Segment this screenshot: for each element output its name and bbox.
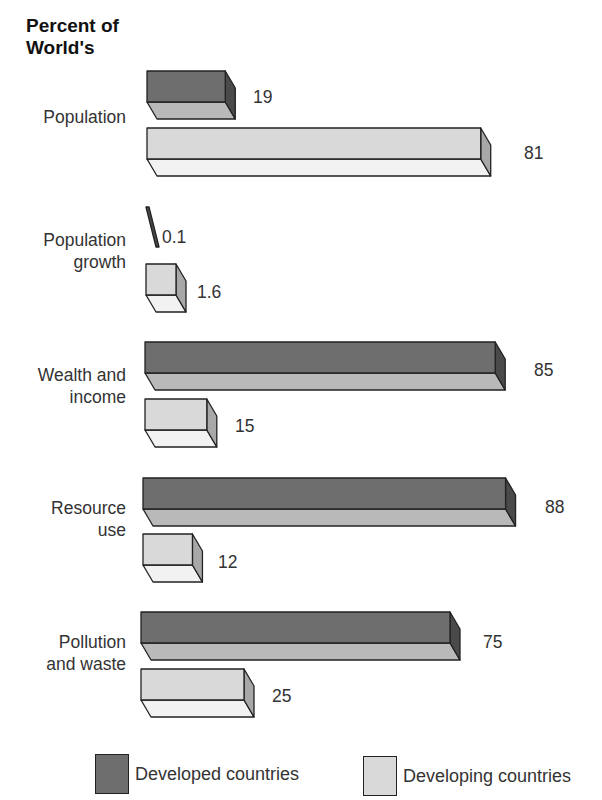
bar-developed-1 xyxy=(146,207,159,247)
bar-developed-2 xyxy=(145,342,505,390)
bar-developing-3 xyxy=(143,534,202,582)
value-resource-developed: 88 xyxy=(545,497,564,518)
legend-developed: Developed countries xyxy=(95,754,299,794)
value-wealth-developing: 15 xyxy=(235,416,254,437)
bar-developed-3 xyxy=(143,478,516,526)
value-population-developing: 81 xyxy=(524,143,543,164)
bar-developed-0 xyxy=(147,71,235,119)
legend-developing: Developing countries xyxy=(363,756,571,796)
value-pollution-developed: 75 xyxy=(483,632,502,653)
legend-label-developed: Developed countries xyxy=(135,764,299,785)
legend-label-developing: Developing countries xyxy=(403,766,571,787)
value-pollution-developing: 25 xyxy=(272,686,291,707)
bar-developing-2 xyxy=(145,399,217,447)
bar-developed-4 xyxy=(141,612,460,660)
bar-developing-1 xyxy=(146,264,186,312)
value-population-developed: 19 xyxy=(253,87,272,108)
value-wealth-developed: 85 xyxy=(534,360,553,381)
value-resource-developing: 12 xyxy=(218,552,237,573)
bar-developing-4 xyxy=(141,669,254,717)
bars-plot xyxy=(0,0,602,800)
value-growth-developing: 1.6 xyxy=(197,282,221,303)
value-growth-developed: 0.1 xyxy=(162,227,186,248)
legend-swatch-developing xyxy=(363,756,397,796)
bar-developing-0 xyxy=(147,128,491,176)
legend-swatch-developed xyxy=(95,754,129,794)
